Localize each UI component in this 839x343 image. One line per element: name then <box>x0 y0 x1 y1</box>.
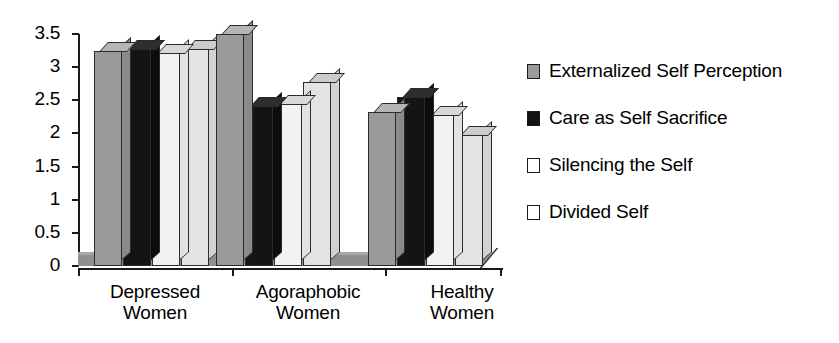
y-axis-tick <box>72 166 79 168</box>
bar-side-face <box>121 37 131 261</box>
x-axis-tick <box>385 268 387 276</box>
bar-side-face <box>150 35 160 261</box>
category-label-line-2: Women <box>228 302 388 323</box>
bar-front-face <box>216 34 244 266</box>
bar-side-face <box>453 101 463 261</box>
x-axis-tick <box>78 268 80 276</box>
legend-item[interactable]: Silencing the Self <box>527 154 839 201</box>
bar <box>216 34 244 266</box>
y-axis-tick-label: 0 <box>50 255 60 274</box>
y-axis-tick-label: 0.5 <box>34 222 60 241</box>
legend-item-label: Care as Self Sacrifice <box>549 107 727 129</box>
bar-chart: 3.532.521.510.50 DepressedWomenAgoraphob… <box>0 0 839 343</box>
legend-item-label: Divided Self <box>549 201 648 223</box>
legend-item-label: Externalized Self Perception <box>549 60 782 82</box>
bar <box>94 51 122 266</box>
bar-group <box>216 20 332 270</box>
category-label-line-2: Women <box>75 302 235 323</box>
y-axis-tick-label: 1.5 <box>34 156 60 175</box>
bar-group <box>94 20 210 270</box>
bar-side-face <box>395 98 405 261</box>
bar-front-face <box>368 112 396 266</box>
bar-side-face <box>424 83 434 261</box>
category-label-line-1: Healthy <box>430 281 493 302</box>
legend-swatch-icon <box>527 158 540 173</box>
bar-front-face <box>94 51 122 266</box>
y-axis-tick <box>72 132 79 134</box>
category-label-line-1: Depressed <box>110 281 200 302</box>
x-axis-line <box>78 268 503 270</box>
legend: Externalized Self PerceptionCare as Self… <box>527 60 839 248</box>
y-axis-tick <box>72 66 79 68</box>
x-axis-category-label: AgoraphobicWomen <box>228 281 388 323</box>
x-axis-category-label: DepressedWomen <box>75 281 235 323</box>
legend-item[interactable]: Care as Self Sacrifice <box>527 107 839 154</box>
category-label-line-1: Agoraphobic <box>256 281 361 302</box>
y-axis-tick-label: 3.5 <box>34 23 60 42</box>
legend-item[interactable]: Divided Self <box>527 201 839 248</box>
y-axis-tick <box>72 199 79 201</box>
legend-item-label: Silencing the Self <box>549 154 692 176</box>
y-axis-tick <box>72 232 79 234</box>
bar-side-face <box>482 121 492 261</box>
x-axis-tick <box>500 268 502 276</box>
bar-group <box>368 20 484 270</box>
category-label-line-2: Women <box>382 302 542 323</box>
legend-swatch-icon <box>527 205 540 220</box>
bar <box>368 112 396 266</box>
legend-item[interactable]: Externalized Self Perception <box>527 60 839 107</box>
legend-swatch-icon <box>527 111 540 126</box>
x-axis-tick <box>232 268 234 276</box>
bar-side-face <box>301 90 311 261</box>
y-axis-tick-label: 2 <box>50 122 60 141</box>
plot-area <box>80 20 500 270</box>
bar-side-face <box>272 92 282 261</box>
y-axis-tick-label: 3 <box>50 56 60 75</box>
bar-side-face <box>179 39 189 261</box>
bar-side-face <box>243 20 253 261</box>
y-axis-tick <box>72 33 79 35</box>
y-axis-tick-label: 2.5 <box>34 89 60 108</box>
bar-side-face <box>330 68 340 261</box>
legend-swatch-icon <box>527 64 540 79</box>
x-axis-category-label: HealthyWomen <box>382 281 542 323</box>
y-axis-tick-label: 1 <box>50 189 60 208</box>
y-axis-tick <box>72 99 79 101</box>
